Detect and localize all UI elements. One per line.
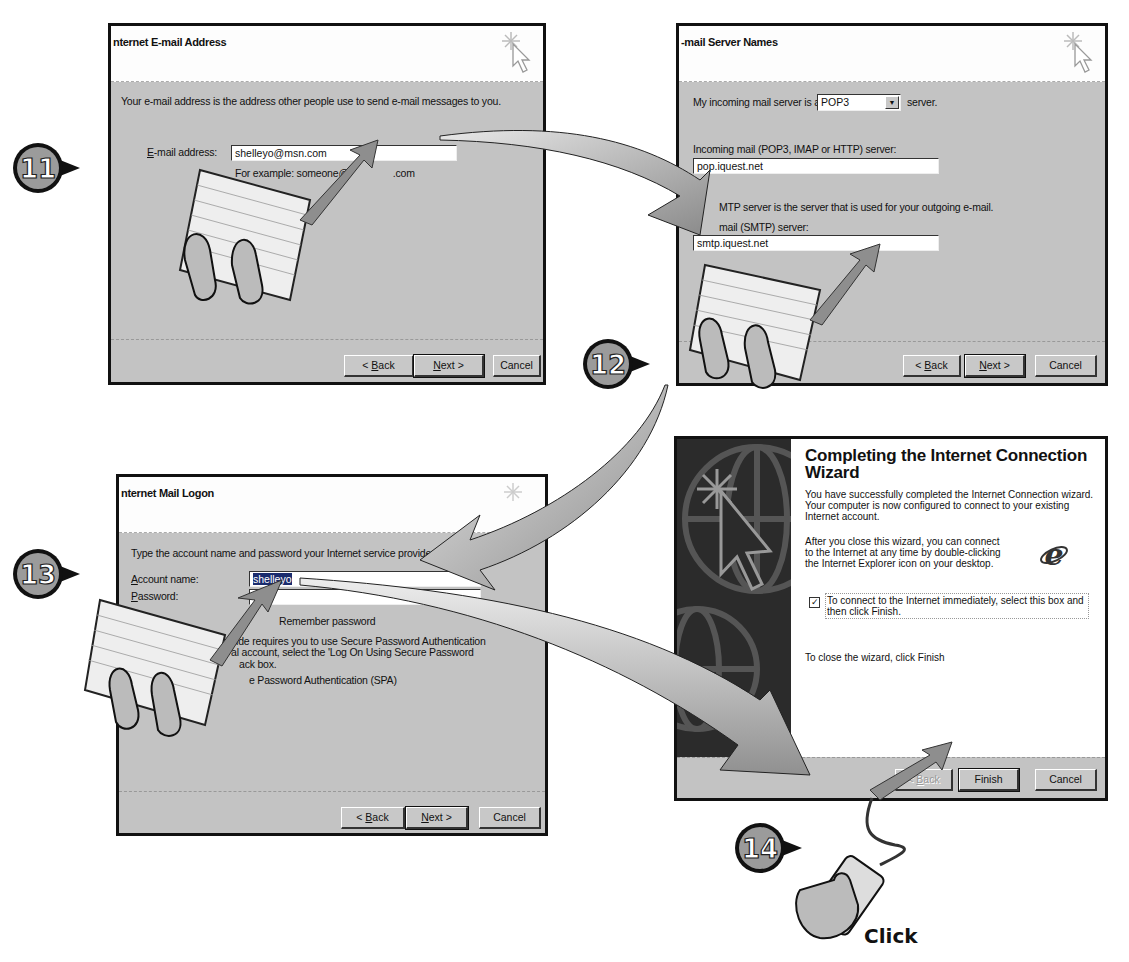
internet-mail-logon-dialog: nternet Mail Logon Type the account name… xyxy=(116,474,548,836)
next-button[interactable]: Next > xyxy=(414,355,484,377)
globe-cursor-icon xyxy=(677,439,791,757)
password-input[interactable] xyxy=(249,589,481,605)
outgoing-server-input[interactable]: smtp.iquest.net xyxy=(693,235,939,251)
wizard-cursor-icon xyxy=(503,481,537,527)
wizard-cursor-icon xyxy=(1063,30,1097,76)
spa-checkbox-label: e Password Authentication (SPA) xyxy=(249,674,397,686)
connect-now-label[interactable]: To connect to the Internet immediately, … xyxy=(825,593,1089,619)
cancel-button[interactable]: Cancel xyxy=(479,807,541,829)
incoming-type-dropdown[interactable]: POP3 ▼ xyxy=(817,94,901,111)
back-button[interactable]: < Back xyxy=(341,807,405,829)
back-button[interactable]: < Back xyxy=(895,769,953,791)
finish-button[interactable]: Finish xyxy=(959,769,1019,791)
svg-text:e: e xyxy=(1044,539,1063,569)
svg-text:12: 12 xyxy=(590,350,626,380)
account-name-input[interactable]: shelleyo xyxy=(249,571,481,587)
step-12-badge: 12 xyxy=(578,334,652,394)
dialog-title: nternet Mail Logon xyxy=(121,487,214,499)
incoming-server-input[interactable]: pop.iquest.net xyxy=(693,158,939,174)
account-name-label: Account name: xyxy=(131,573,198,585)
spa-note-line3: ack box. xyxy=(239,658,277,670)
incoming-type-prefix: My incoming mail server is a xyxy=(693,96,820,108)
email-input[interactable]: shelleyo@msn.com xyxy=(231,145,457,161)
step-13-badge: 13 xyxy=(8,544,82,604)
description-text: Your e-mail address is the address other… xyxy=(121,95,501,107)
completing-wizard-dialog: Completing the Internet Connection Wizar… xyxy=(674,436,1108,801)
cancel-button[interactable]: Cancel xyxy=(1035,355,1097,377)
dialog-title: nternet E-mail Address xyxy=(113,36,226,48)
description-text: Type the account name and password your … xyxy=(131,547,488,559)
email-server-names-dialog: -mail Server Names My incoming mail serv… xyxy=(676,23,1108,386)
remember-password-label: Remember password xyxy=(279,615,375,627)
next-button[interactable]: Next > xyxy=(965,355,1025,377)
example-text: For example: someone@.com xyxy=(235,167,415,179)
cancel-button[interactable]: Cancel xyxy=(493,355,541,377)
svg-text:11: 11 xyxy=(20,154,56,184)
email-label: E-mail address: xyxy=(147,146,217,158)
step-11-badge: 11 xyxy=(8,138,82,198)
outgoing-server-label: mail (SMTP) server: xyxy=(719,221,809,233)
wizard-side-art xyxy=(677,439,791,757)
svg-text:13: 13 xyxy=(20,560,56,590)
svg-text:14: 14 xyxy=(742,834,778,864)
incoming-server-label: Incoming mail (POP3, IMAP or HTTP) serve… xyxy=(693,143,896,155)
smtp-note: MTP server is the server that is used fo… xyxy=(719,201,993,213)
wizard-heading: Completing the Internet Connection Wizar… xyxy=(805,447,1095,481)
step-14-badge: 14 xyxy=(730,818,804,878)
back-button[interactable]: < Back xyxy=(903,355,961,377)
email-address-dialog: nternet E-mail Address Your e-mail addre… xyxy=(108,23,546,385)
chevron-down-icon: ▼ xyxy=(885,96,899,109)
password-label: Password: xyxy=(131,590,178,602)
dialog-title: -mail Server Names xyxy=(681,36,778,48)
cancel-button[interactable]: Cancel xyxy=(1035,769,1097,791)
spa-note-line2: al account, select the 'Log On Using Sec… xyxy=(231,646,474,658)
close-note: To close the wizard, click Finish xyxy=(805,652,945,663)
incoming-type-suffix: server. xyxy=(907,96,937,108)
click-label: Click xyxy=(864,924,918,948)
back-button[interactable]: < Back xyxy=(344,355,414,377)
internet-explorer-icon: e xyxy=(1039,539,1069,569)
after-close-text: After you close this wizard, you can con… xyxy=(805,536,1005,569)
wizard-cursor-icon xyxy=(501,30,535,76)
next-button[interactable]: Next > xyxy=(406,807,468,829)
connect-now-checkbox[interactable]: ✓ xyxy=(809,597,820,608)
success-text: You have successfully completed the Inte… xyxy=(805,489,1095,522)
